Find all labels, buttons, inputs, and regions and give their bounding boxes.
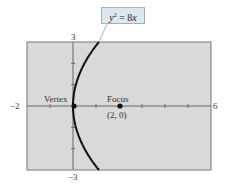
x-min-label: −2 (10, 101, 20, 111)
x-max-label: 6 (213, 101, 218, 111)
focus-label: Focus (107, 94, 129, 104)
y-min-label: −3 (68, 172, 78, 182)
vertex-point (71, 103, 76, 108)
callout-pointer (99, 24, 107, 42)
vertex-label: Vertex (44, 94, 68, 104)
focus-point (117, 103, 122, 108)
y-max-label: 3 (71, 32, 76, 42)
equation-callout: y2 = 8x (101, 7, 145, 24)
focus-coords-label: (2, 0) (107, 110, 127, 120)
